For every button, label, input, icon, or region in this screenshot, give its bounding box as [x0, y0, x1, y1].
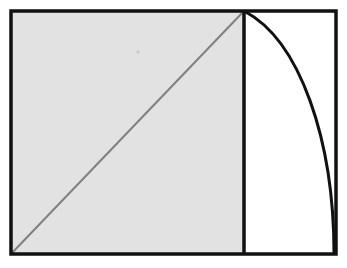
scan-artifact-dot — [136, 50, 139, 53]
figure-container: Square with diagonal and circular arc — [0, 0, 347, 268]
geometric-figure-svg — [0, 0, 347, 268]
